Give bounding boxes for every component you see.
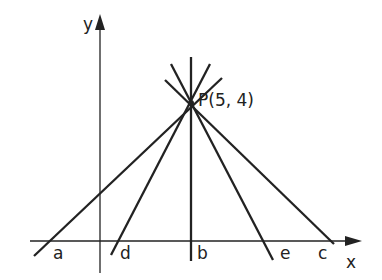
x-axis-label: x bbox=[346, 252, 356, 272]
line-diagram bbox=[0, 0, 382, 280]
y-axis-label: y bbox=[83, 14, 93, 34]
line-b-label: b bbox=[197, 243, 208, 263]
line-e-label: e bbox=[280, 243, 290, 263]
line-d-label: d bbox=[120, 243, 131, 263]
line-d bbox=[111, 64, 210, 255]
line-a bbox=[34, 78, 222, 256]
point-p bbox=[188, 100, 194, 106]
line-c-label: c bbox=[318, 243, 327, 263]
point-p-label: P(5, 4) bbox=[198, 90, 254, 110]
x-axis-arrow-icon bbox=[345, 236, 362, 246]
y-axis-arrow-icon bbox=[95, 14, 105, 30]
diagram: y x P(5, 4) a d b e c bbox=[0, 0, 382, 280]
line-a-label: a bbox=[53, 243, 63, 263]
